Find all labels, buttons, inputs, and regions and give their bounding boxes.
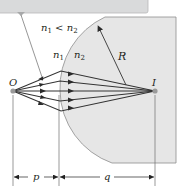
object-label: O	[9, 77, 17, 88]
object-point	[10, 88, 15, 93]
medium-1-label: n1	[53, 49, 64, 62]
refraction-diagram: n1 < n2 n1 n2 R O I p q	[0, 0, 182, 191]
object-distance-label: p	[33, 171, 40, 182]
image-point	[152, 88, 157, 93]
radius-label: R	[117, 50, 126, 63]
image-distance-label: q	[104, 171, 110, 182]
medium-2-region	[60, 17, 176, 163]
condition-label: n1 < n2	[41, 22, 78, 35]
